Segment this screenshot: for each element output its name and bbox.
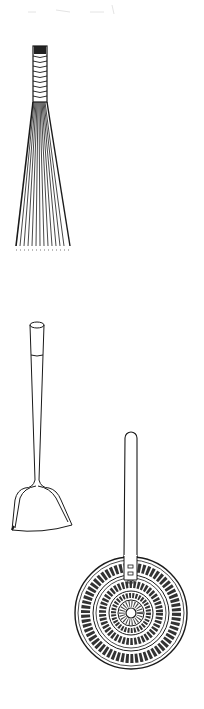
illustration-description: Line drawings of three kitchen utensils … — [0, 0, 1, 1]
whisk-brush-icon — [16, 46, 70, 250]
bleed-through-marks — [28, 5, 114, 14]
strainer-icon — [75, 432, 187, 669]
utensil-illustration: Line drawings of three kitchen utensils … — [0, 0, 204, 709]
spatula-icon — [12, 322, 72, 531]
